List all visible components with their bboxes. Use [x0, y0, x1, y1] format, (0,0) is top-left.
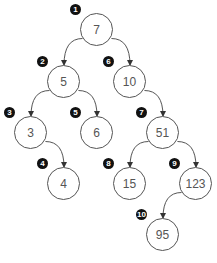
node-value: 4: [60, 177, 67, 191]
tree-node: 95: [146, 218, 179, 251]
edge-n9-n10: [163, 193, 182, 219]
tree-node: 5: [47, 65, 80, 98]
tree-node: 123: [179, 167, 212, 200]
edge-n2-n3: [31, 91, 50, 117]
order-badge: 7: [136, 107, 147, 118]
edge-n6-n7: [144, 91, 163, 117]
edge-n7-n8: [130, 142, 149, 168]
node-value: 15: [123, 177, 136, 191]
order-badge: 5: [70, 107, 81, 118]
node-value: 123: [185, 177, 205, 191]
node-value: 6: [93, 126, 100, 140]
order-badge: 6: [103, 56, 114, 67]
tree-node: 3: [14, 116, 47, 149]
order-badge: 10: [136, 209, 147, 220]
order-badge: 9: [169, 158, 180, 169]
order-badge: 3: [4, 107, 15, 118]
tree-node: 10: [113, 65, 146, 98]
edge-n7-n9: [177, 142, 196, 168]
tree-node: 6: [80, 116, 113, 149]
node-value: 7: [93, 23, 100, 37]
edge-n3-n4: [45, 142, 64, 168]
tree-node: 4: [47, 167, 80, 200]
edge-n1-n2: [64, 39, 83, 66]
order-badge: 1: [70, 4, 81, 15]
node-value: 10: [123, 75, 136, 89]
node-value: 3: [27, 126, 34, 140]
node-value: 51: [156, 126, 169, 140]
node-value: 95: [156, 228, 169, 242]
order-badge: 2: [37, 56, 48, 67]
tree-node: 7: [80, 13, 113, 46]
node-value: 5: [60, 75, 67, 89]
edge-n2-n5: [78, 91, 97, 117]
order-badge: 8: [103, 158, 114, 169]
tree-diagram: 715233446510651715812399510: [0, 0, 217, 263]
tree-node: 15: [113, 167, 146, 200]
tree-node: 51: [146, 116, 179, 149]
edge-n1-n6: [111, 39, 130, 66]
order-badge: 4: [37, 158, 48, 169]
